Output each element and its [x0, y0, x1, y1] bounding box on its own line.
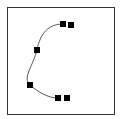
diagram-canvas — [0, 0, 122, 119]
control-points — [27, 21, 74, 101]
control-point-handle[interactable] — [68, 22, 74, 28]
control-point-handle[interactable] — [27, 82, 33, 88]
control-point-handle[interactable] — [34, 47, 40, 53]
control-point-handle[interactable] — [55, 95, 61, 101]
control-point-handle[interactable] — [60, 21, 66, 27]
control-point-handle[interactable] — [64, 95, 70, 101]
